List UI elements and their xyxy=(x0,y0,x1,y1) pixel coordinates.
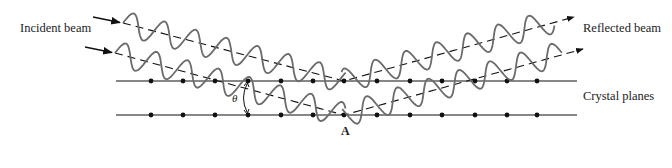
atom-dot xyxy=(181,79,186,84)
point-a-label: A xyxy=(341,124,350,139)
reflected-beam-label: Reflected beam xyxy=(583,21,661,36)
beam-centerline xyxy=(115,49,583,115)
crystal-planes-label: Crystal planes xyxy=(583,89,654,104)
reflected-wave xyxy=(342,16,555,88)
atom-dot xyxy=(311,79,316,84)
atom-dot xyxy=(535,113,540,118)
atom-dot xyxy=(149,113,154,118)
atom-dot xyxy=(279,79,284,84)
crystal-planes xyxy=(116,79,577,118)
bragg-diffraction-diagram xyxy=(0,0,672,168)
atom-dot xyxy=(440,113,445,118)
angle-arc-icon xyxy=(244,82,250,114)
atom-dot xyxy=(311,113,316,118)
theta-label: θ xyxy=(232,92,237,104)
atom-dot xyxy=(279,113,284,118)
atom-dot xyxy=(535,79,540,84)
atom-dot xyxy=(473,113,478,118)
atom-dot xyxy=(375,79,380,84)
incident-arrow-icon xyxy=(85,47,112,53)
incident-beam-label: Incident beam xyxy=(20,21,91,36)
incident-arrow-icon xyxy=(93,17,120,23)
beams xyxy=(85,13,583,123)
atom-dot xyxy=(181,113,186,118)
atom-dot xyxy=(149,79,154,84)
atom-dot xyxy=(408,79,413,84)
atom-dot xyxy=(505,113,510,118)
atom-dot xyxy=(408,113,413,118)
atom-dot xyxy=(440,79,445,84)
atom-dot xyxy=(213,113,218,118)
atom-dot xyxy=(375,113,380,118)
